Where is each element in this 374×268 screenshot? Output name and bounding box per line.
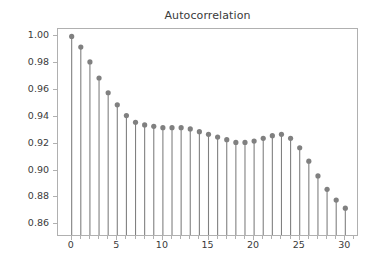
x-axis-minor-tick-mark	[317, 236, 318, 239]
x-axis-minor-tick-mark	[353, 236, 354, 239]
x-axis-tick-label: 20	[247, 240, 259, 250]
stem-plot	[58, 29, 358, 236]
data-point-marker	[124, 113, 129, 118]
data-point-marker	[270, 133, 275, 138]
x-axis-tick-label: 0	[68, 240, 74, 250]
data-point-marker	[78, 45, 83, 50]
x-axis-tick-label: 30	[338, 240, 350, 250]
y-axis-tick-label: 0.94	[28, 111, 49, 121]
y-axis-tick-label: 0.90	[28, 165, 49, 175]
x-axis-minor-tick-mark	[125, 236, 126, 239]
x-axis-minor-tick-mark	[89, 236, 90, 239]
x-axis-minor-tick-mark	[180, 236, 181, 239]
data-point-marker	[133, 120, 138, 125]
x-axis-tick-label: 25	[293, 240, 305, 250]
x-axis-minor-tick-mark	[262, 236, 263, 239]
x-axis-tick-label: 10	[156, 240, 168, 250]
data-point-marker	[288, 136, 293, 141]
x-axis-minor-tick-mark	[135, 236, 136, 239]
x-axis-minor-tick-mark	[271, 236, 272, 239]
data-point-marker	[142, 122, 147, 127]
x-axis-minor-tick-mark	[335, 236, 336, 239]
data-point-marker	[324, 187, 329, 192]
data-point-marker	[197, 129, 202, 134]
data-point-marker	[87, 59, 92, 64]
x-axis-minor-tick-mark	[235, 236, 236, 239]
data-point-marker	[297, 145, 302, 150]
x-axis-minor-tick-mark	[98, 236, 99, 239]
data-point-marker	[252, 138, 257, 143]
y-axis-tick-labels: 0.860.880.900.920.940.960.981.00	[0, 0, 49, 268]
data-point-marker	[242, 140, 247, 145]
plot-area	[57, 28, 358, 236]
x-axis-minor-tick-mark	[144, 236, 145, 239]
x-axis-minor-tick-mark	[244, 236, 245, 239]
y-axis-tick-label: 0.88	[28, 191, 49, 201]
x-axis-minor-tick-mark	[217, 236, 218, 239]
x-axis-minor-tick-mark	[153, 236, 154, 239]
data-point-marker	[96, 75, 101, 80]
x-axis-minor-tick-mark	[326, 236, 327, 239]
chart-title: Autocorrelation	[57, 9, 358, 22]
data-point-marker	[160, 125, 165, 130]
data-point-marker	[334, 197, 339, 202]
data-point-marker	[215, 134, 220, 139]
x-axis-tick-labels: 051015202530	[0, 240, 374, 256]
x-axis-minor-tick-mark	[226, 236, 227, 239]
data-point-marker	[188, 126, 193, 131]
x-axis-minor-tick-mark	[107, 236, 108, 239]
x-axis-minor-tick-mark	[80, 236, 81, 239]
data-point-marker	[306, 159, 311, 164]
data-point-marker	[279, 132, 284, 137]
data-point-marker	[151, 124, 156, 129]
x-axis-tick-label: 15	[201, 240, 213, 250]
x-axis-minor-tick-mark	[290, 236, 291, 239]
y-axis-tick-label: 0.96	[28, 84, 49, 94]
figure: Autocorrelation 0.860.880.900.920.940.96…	[0, 0, 374, 268]
y-axis-tick-label: 0.86	[28, 218, 49, 228]
x-axis-minor-tick-mark	[171, 236, 172, 239]
data-point-marker	[224, 137, 229, 142]
data-point-marker	[343, 206, 348, 211]
x-axis-tick-label: 5	[113, 240, 119, 250]
x-axis-minor-tick-mark	[189, 236, 190, 239]
x-axis-minor-tick-mark	[308, 236, 309, 239]
y-axis-tick-label: 1.00	[28, 30, 49, 40]
data-point-marker	[169, 125, 174, 130]
data-point-marker	[233, 140, 238, 145]
data-point-marker	[69, 34, 74, 39]
y-axis-tick-label: 0.98	[28, 57, 49, 67]
data-point-marker	[315, 173, 320, 178]
x-axis-minor-tick-mark	[198, 236, 199, 239]
data-point-marker	[179, 125, 184, 130]
data-point-marker	[106, 90, 111, 95]
data-point-marker	[261, 136, 266, 141]
data-point-marker	[206, 132, 211, 137]
x-axis-minor-tick-mark	[280, 236, 281, 239]
y-axis-tick-label: 0.92	[28, 138, 49, 148]
data-point-marker	[115, 102, 120, 107]
